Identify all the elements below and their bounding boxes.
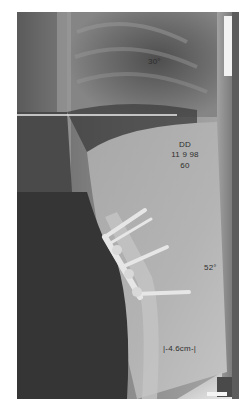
number-annotation: 60 bbox=[165, 161, 205, 170]
date-annotation: 11 9 98 bbox=[153, 150, 217, 159]
radiograph-image bbox=[17, 12, 239, 399]
measurement-annotation: |-4.6cm-| bbox=[163, 344, 196, 353]
top-angle-annotation: 30° bbox=[148, 57, 161, 66]
radiograph-frame: 30° DD 11 9 98 60 52° |-4.6cm-| bbox=[17, 12, 239, 399]
lower-angle-annotation: 52° bbox=[204, 263, 217, 272]
initials-annotation: DD bbox=[165, 140, 205, 149]
